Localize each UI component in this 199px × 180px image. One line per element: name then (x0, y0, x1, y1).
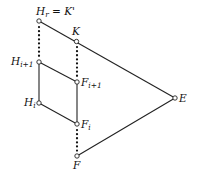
node-fi1 (75, 80, 79, 84)
label-e: E (178, 92, 187, 104)
edge-hi-fi (39, 103, 77, 124)
label-hi: Hi (23, 96, 36, 110)
node-hi (37, 101, 41, 105)
edge-hi1-fi1 (39, 62, 77, 82)
node-f (75, 154, 79, 158)
edge-hr-e (39, 21, 175, 98)
node-fi (75, 122, 79, 126)
label-f: F (72, 159, 81, 171)
node-hr (37, 19, 41, 23)
node-k (74, 39, 78, 43)
label-hi1: Hi+1 (10, 55, 34, 69)
node-e (173, 96, 177, 100)
label-fi1: Fi+1 (80, 76, 102, 90)
label-fi: Fi (80, 118, 91, 132)
node-hi1 (37, 60, 41, 64)
label-hr: Hr = K' (35, 5, 75, 19)
edge-f-e (77, 98, 175, 156)
lattice-diagram: Hr = K' K Hi+1 Fi+1 Hi Fi F E (0, 0, 199, 180)
label-k: K (71, 25, 81, 37)
